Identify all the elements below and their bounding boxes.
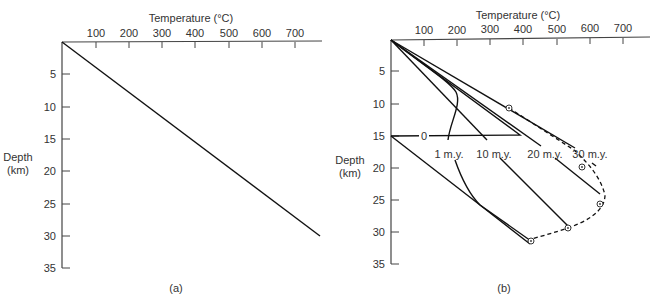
panel-b-x-title: Temperature (°C) <box>476 9 560 21</box>
x-tick-label: 100 <box>87 27 105 39</box>
figure-canvas: Temperature (°C) 100 200 300 400 500 600… <box>0 0 656 302</box>
panel-b-x-ticks: 100 200 300 400 500 600 700 <box>415 22 632 46</box>
x-tick-label: 300 <box>481 23 499 35</box>
x-tick-label: 300 <box>153 27 171 39</box>
y-tick-label: 15 <box>44 133 56 145</box>
panel-b-caption: (b) <box>497 282 510 294</box>
panel-a-x-ticks: 100 200 300 400 500 600 700 <box>87 27 304 48</box>
panel-a-caption: (a) <box>169 282 182 294</box>
y-tick-label: 5 <box>50 68 56 80</box>
panel-a-geotherm-line <box>62 42 320 236</box>
curve-10-my-tail <box>480 205 531 241</box>
curve-20-my-upper <box>391 40 541 146</box>
y-tick-label: 35 <box>44 262 56 274</box>
label-0: 0 <box>421 130 427 142</box>
curve-10-my-upper <box>391 40 487 140</box>
x-tick-label: 400 <box>514 23 532 35</box>
curve-10-my-lower <box>500 158 568 226</box>
x-tick-label: 200 <box>120 27 138 39</box>
curve-0-my-lower <box>391 136 480 205</box>
y-tick-label: 20 <box>373 162 385 174</box>
curve-1-my-upper <box>391 40 458 140</box>
curve-1-my-lower <box>455 160 530 244</box>
panel-b-y-title-line1: Depth <box>335 154 364 166</box>
panel-b-y-title-line2: (km) <box>339 167 361 179</box>
x-tick-label: 500 <box>548 23 566 35</box>
y-tick-label: 30 <box>373 226 385 238</box>
curve-30-my-upper <box>391 40 575 148</box>
label-20-my: 20 m.y. <box>527 148 562 160</box>
x-tick-label: 500 <box>220 27 238 39</box>
x-tick-label: 400 <box>186 27 204 39</box>
peak-temperature-envelope <box>509 108 605 241</box>
y-tick-label: 10 <box>44 101 56 113</box>
y-tick-label: 35 <box>373 258 385 270</box>
y-tick-label: 10 <box>373 98 385 110</box>
y-tick-label: 15 <box>373 130 385 142</box>
panel-b-y-ticks: 5 10 15 20 25 30 35 <box>373 65 399 270</box>
x-tick-label: 600 <box>581 22 599 34</box>
y-tick-label: 30 <box>44 230 56 242</box>
curve-30-my-lower <box>592 163 596 166</box>
panel-a-x-axis <box>62 41 322 42</box>
panel-a: Temperature (°C) 100 200 300 400 500 600… <box>3 12 322 294</box>
peak-markers <box>506 105 603 244</box>
x-tick-label: 100 <box>415 24 433 36</box>
x-tick-label: 600 <box>253 27 271 39</box>
x-tick-label: 200 <box>448 24 466 36</box>
y-tick-label: 25 <box>44 198 56 210</box>
x-tick-label: 700 <box>286 27 304 39</box>
label-30-my: 30 m.y. <box>572 148 607 160</box>
panel-a-y-ticks: 5 10 15 20 25 30 35 <box>44 68 70 274</box>
panel-b-x-axis <box>391 37 650 40</box>
x-tick-label: 700 <box>614 22 632 34</box>
panel-a-x-title: Temperature (°C) <box>149 12 233 24</box>
y-tick-label: 20 <box>44 165 56 177</box>
panel-a-y-title-line1: Depth <box>3 151 32 163</box>
panel-a-y-title-line2: (km) <box>7 164 29 176</box>
label-10-my: 10 m.y. <box>476 148 511 160</box>
y-tick-label: 25 <box>373 194 385 206</box>
label-1-my: 1 m.y. <box>434 148 463 160</box>
y-tick-label: 5 <box>379 65 385 77</box>
panel-b: Temperature (°C) 100 200 300 400 500 600… <box>335 9 650 294</box>
